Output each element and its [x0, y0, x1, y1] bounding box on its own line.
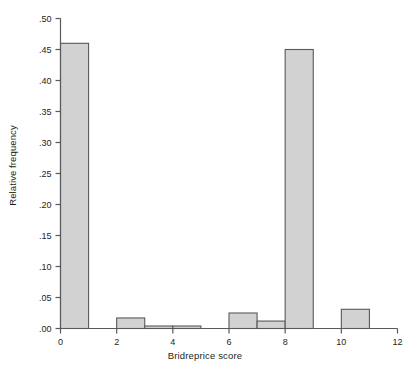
- histogram-bar: [285, 50, 313, 329]
- y-axis-tick-label: .15: [24, 231, 52, 241]
- y-axis-tick-label: .35: [24, 107, 52, 117]
- y-axis-tick-label: .45: [24, 45, 52, 55]
- y-axis-tick-label: .10: [24, 262, 52, 272]
- x-axis-tick-label: 6: [226, 337, 231, 347]
- histogram-bar: [229, 313, 257, 329]
- x-axis-title-text: Bridreprice score: [168, 350, 242, 361]
- histogram-bar: [341, 309, 369, 328]
- y-axis-tick-label: .25: [24, 169, 52, 179]
- histogram-bar: [61, 43, 89, 328]
- histogram-bar: [117, 318, 145, 329]
- x-axis-tick-label: 2: [114, 337, 119, 347]
- x-axis-tick-label: 8: [283, 337, 288, 347]
- bars-group: [61, 43, 370, 328]
- y-axis-tick-label: .40: [24, 76, 52, 86]
- plot-area: [0, 0, 410, 377]
- y-axis-tick-label: .00: [24, 324, 52, 334]
- axis-ticks: [56, 19, 398, 334]
- axis-lines: [61, 19, 398, 329]
- x-axis-title: Bridreprice score: [0, 350, 410, 361]
- y-axis-tick-label: .05: [24, 293, 52, 303]
- x-axis-tick-label: 12: [392, 337, 402, 347]
- y-axis-tick-label: .20: [24, 200, 52, 210]
- chart-canvas: [0, 0, 410, 377]
- x-axis-tick-label: 0: [58, 337, 63, 347]
- histogram-bar: [257, 321, 285, 328]
- y-axis-tick-label: .30: [24, 138, 52, 148]
- y-axis-tick-label: .50: [24, 14, 52, 24]
- x-axis-tick-label: 10: [336, 337, 346, 347]
- relative-frequency-histogram: Relative frequency .00.05.10.15.20.25.30…: [0, 0, 410, 377]
- x-axis-tick-label: 4: [170, 337, 175, 347]
